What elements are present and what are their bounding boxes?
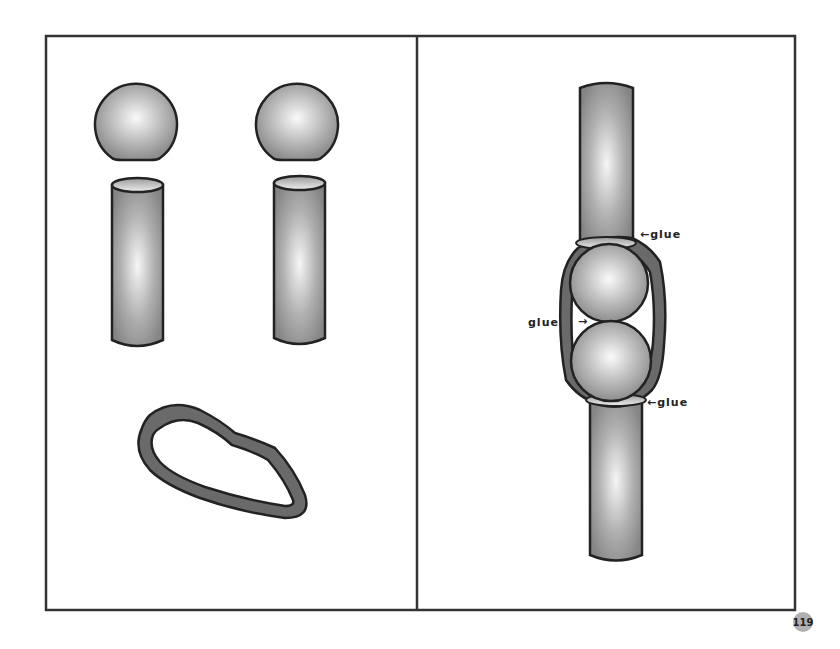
assembly-ball-upper (570, 244, 648, 322)
assembly-ball-lower (571, 321, 651, 401)
glue-label-lower: ←glue (647, 396, 688, 409)
page-number: 119 (793, 617, 814, 628)
ball-2 (256, 84, 338, 160)
ball-1 (95, 84, 177, 160)
craft-instruction-page: ←glue glue → ←glue 119 (0, 0, 840, 649)
assembly-top-tube (580, 83, 633, 245)
left-panel (95, 84, 338, 518)
svg-text:→: → (578, 315, 588, 328)
svg-text:←glue: ←glue (647, 396, 688, 409)
svg-text:←glue: ←glue (640, 228, 681, 241)
tube-2 (274, 176, 325, 344)
band-loop (138, 405, 306, 518)
tube-1 (112, 178, 163, 346)
assembly-bottom-tube (590, 400, 642, 561)
glue-label-upper: ←glue (640, 228, 681, 241)
glue-label-middle: glue → (528, 315, 588, 329)
right-panel: ←glue glue → ←glue (528, 83, 688, 561)
illustration: ←glue glue → ←glue 119 (0, 0, 840, 649)
page-number-badge: 119 (793, 612, 814, 632)
svg-text:glue: glue (528, 316, 559, 329)
